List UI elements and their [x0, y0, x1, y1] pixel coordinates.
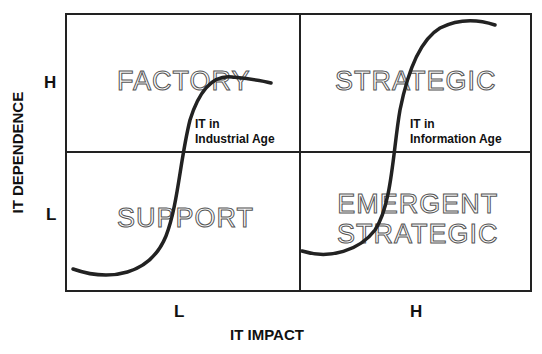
s-curves — [0, 0, 542, 354]
information-age-label: IT in Information Age — [410, 117, 502, 147]
industrial-age-label: IT in Industrial Age — [195, 117, 275, 147]
industrial-age-curve — [73, 77, 271, 275]
